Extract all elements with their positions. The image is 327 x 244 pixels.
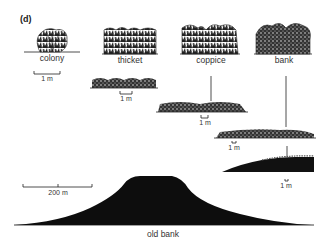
bank-illustration (254, 23, 312, 54)
bank-label: bank (264, 55, 304, 65)
colony-scale-bar (34, 71, 60, 74)
thicket-illustration (102, 28, 158, 55)
bank-scale-bar (232, 141, 236, 143)
coppice-small-illustration (156, 102, 248, 112)
bank-scale-label: 1 m (222, 144, 246, 151)
old-bank-small-scale-label: 1 m (274, 182, 298, 189)
thicket-scale-label: 1 m (114, 95, 138, 102)
coppice-illustration (180, 25, 240, 54)
old-bank-label: old bank (138, 229, 188, 239)
diagram-canvas (0, 0, 327, 244)
colony-scale-label: 1 m (34, 75, 60, 82)
coppice-label: coppice (188, 55, 234, 65)
old-bank-scale-label: 200 m (40, 189, 76, 196)
old-bank-scale-bar (23, 184, 92, 187)
colony-illustration (24, 29, 80, 52)
colony-label: colony (34, 53, 70, 63)
old-bank-small-illustration (222, 156, 314, 172)
coppice-scale-bar (201, 115, 208, 118)
old-bank-small-scale-bar (285, 179, 288, 181)
bank-small-illustration (214, 129, 316, 138)
coppice-scale-label: 1 m (193, 119, 217, 126)
thicket-label: thicket (110, 55, 150, 65)
panel-label: (d) (20, 14, 32, 24)
thicket-small-illustration (90, 78, 158, 88)
thicket-scale-bar (120, 91, 132, 94)
old-bank-mound (15, 176, 312, 225)
